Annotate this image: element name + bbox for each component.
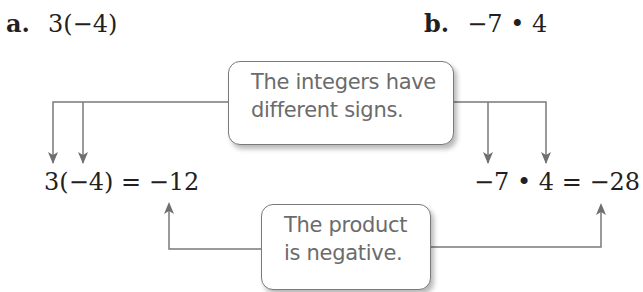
worked-example: a.3(−4) b.−7 • 4 The integers have diffe… (0, 0, 643, 292)
problem-b-expression: −7 • 4 (467, 10, 547, 38)
callout-top-line1: The integers have (251, 68, 453, 96)
callout-product-negative: The product is negative. (261, 204, 431, 290)
callout-bottom-line1: The product (284, 211, 430, 239)
problem-a-label: a. (6, 9, 30, 38)
arrow-to-factors-b (454, 102, 546, 163)
problem-b: b.−7 • 4 (424, 12, 547, 36)
problem-a: a.3(−4) (6, 12, 117, 36)
callout-bottom-line2: is negative. (284, 239, 430, 267)
equation-a: 3(−4) = −12 (44, 170, 199, 194)
problem-a-expression: 3(−4) (48, 10, 117, 38)
problem-b-label: b. (424, 9, 449, 38)
arrow-to-product-a (169, 204, 261, 249)
callout-different-signs: The integers have different signs. (228, 61, 454, 145)
equation-b: −7 • 4 = −28 (474, 170, 640, 194)
arrow-to-product-b (431, 205, 601, 247)
callout-top-line2: different signs. (251, 96, 453, 124)
